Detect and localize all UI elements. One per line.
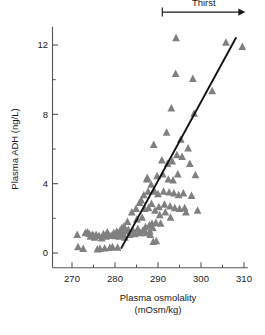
y-tick-label: 8	[43, 109, 48, 120]
chart-canvas: Thirst 04812270280290300310 Plasma ADH (…	[0, 0, 265, 335]
y-tick-label: 12	[37, 39, 48, 50]
thirst-label: Thirst	[192, 0, 216, 8]
y-tick-label: 4	[43, 178, 48, 189]
y-tick-label: 0	[43, 247, 48, 258]
x-tick-label: 290	[150, 273, 166, 284]
x-axis-title: Plasma osmolality	[120, 292, 197, 303]
x-axis-units: (mOsm/kg)	[135, 304, 182, 315]
scatter-plot-figure: Thirst 04812270280290300310 Plasma ADH (…	[0, 0, 265, 335]
x-tick-label: 270	[64, 273, 80, 284]
x-tick-label: 300	[193, 273, 209, 284]
x-tick-label: 310	[236, 273, 252, 284]
y-axis-title: Plasma ADH (ng/L)	[9, 108, 20, 189]
x-tick-label: 280	[107, 273, 123, 284]
